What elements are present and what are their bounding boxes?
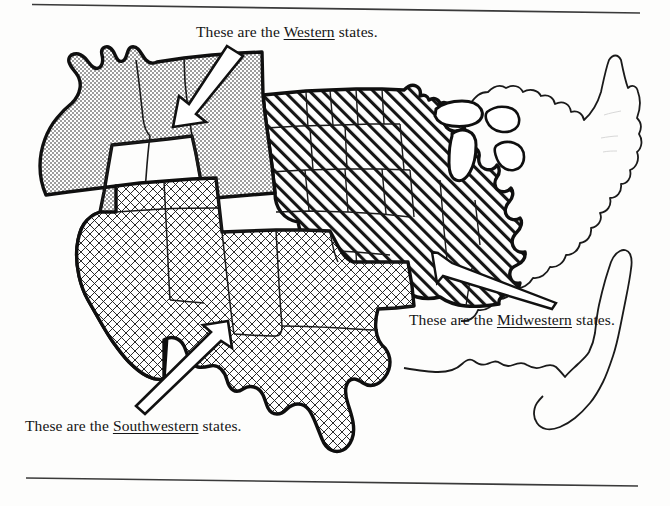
caption-southwestern-prefix: These are the xyxy=(25,417,113,434)
caption-southwestern-emphasis: Southwestern xyxy=(113,417,199,434)
caption-western-emphasis: Western xyxy=(284,23,335,40)
caption-midwestern: These are the Midwestern states. xyxy=(409,311,615,328)
caption-western-prefix: These are the xyxy=(196,23,284,40)
caption-southwestern-suffix: states. xyxy=(199,417,242,434)
caption-western: These are the Western states. xyxy=(196,23,378,40)
caption-southwestern: These are the Southwestern states. xyxy=(25,417,242,434)
caption-midwestern-prefix: These are the xyxy=(409,311,497,328)
caption-midwestern-emphasis: Midwestern xyxy=(497,311,572,328)
caption-midwestern-suffix: states. xyxy=(572,311,615,328)
caption-western-suffix: states. xyxy=(335,23,378,40)
figure-page: These are the Western states. These are … xyxy=(0,0,670,506)
